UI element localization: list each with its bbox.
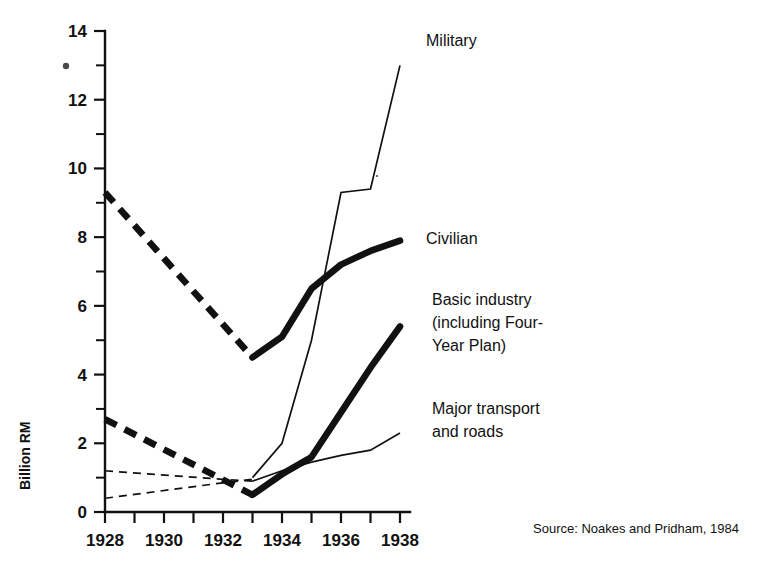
stray-ink-speck xyxy=(376,175,378,177)
stray-ink-dot xyxy=(63,63,69,69)
y-tick-label: 4 xyxy=(78,366,88,385)
x-axis-tick-labels: 192819301932193419361938 xyxy=(86,531,419,550)
series-label-basic-industry-line2: (including Four- xyxy=(432,314,543,331)
x-tick-label: 1938 xyxy=(381,531,419,550)
x-tick-label: 1930 xyxy=(145,531,183,550)
series-solid-military xyxy=(253,65,401,477)
series-label-basic-industry-line1: Basic industry xyxy=(432,291,532,308)
chart-canvas: 14121086420 Billion RM 19281930193219341… xyxy=(0,0,770,570)
series-dashed-lower-estimate-trace xyxy=(105,479,253,498)
series-label-civilian: Civilian xyxy=(426,230,478,247)
y-tick-label: 0 xyxy=(78,503,87,522)
series-label-transport-line1: Major transport xyxy=(432,400,540,417)
series-label-transport-line2: and roads xyxy=(432,423,503,440)
chart-figure: 14121086420 Billion RM 19281930193219341… xyxy=(0,0,770,570)
plot-series-group xyxy=(105,65,400,498)
series-dashed-basic-industry-including-four-year-plan xyxy=(105,419,253,495)
y-axis-title: Billion RM xyxy=(17,422,33,490)
y-tick-label: 12 xyxy=(68,91,87,110)
y-axis-ticks xyxy=(94,31,105,512)
y-tick-label: 2 xyxy=(78,434,87,453)
series-dashed-major-transport-and-roads xyxy=(105,471,253,481)
x-tick-label: 1934 xyxy=(263,531,301,550)
x-tick-label: 1928 xyxy=(86,531,124,550)
y-tick-label: 14 xyxy=(68,22,87,41)
source-note: Source: Noakes and Pridham, 1984 xyxy=(533,521,739,536)
x-axis-ticks xyxy=(105,512,400,523)
x-axis: 192819301932193419361938 xyxy=(86,512,419,550)
y-tick-label: 10 xyxy=(68,159,87,178)
y-axis: 14121086420 Billion RM xyxy=(17,22,105,522)
series-label-military: Military xyxy=(426,32,477,49)
series-solid-basic-industry-including-four-year-plan xyxy=(253,326,401,494)
series-solid-civilian xyxy=(253,241,401,358)
y-axis-tick-labels: 14121086420 xyxy=(68,22,87,522)
y-tick-label: 6 xyxy=(78,297,87,316)
x-tick-label: 1936 xyxy=(322,531,360,550)
series-dashed-civilian xyxy=(105,192,253,357)
x-tick-label: 1932 xyxy=(204,531,242,550)
series-label-basic-industry-line3: Year Plan) xyxy=(432,337,506,354)
y-tick-label: 8 xyxy=(78,228,87,247)
